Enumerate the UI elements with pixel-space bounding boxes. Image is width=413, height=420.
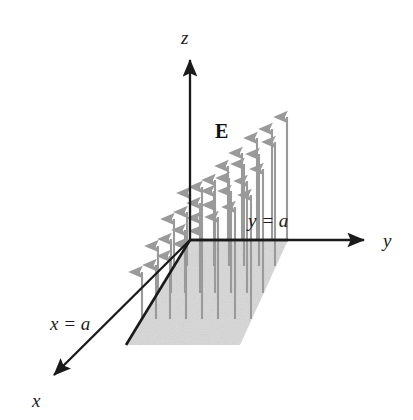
z-axis-label: z	[181, 28, 188, 47]
diagram-canvas	[0, 0, 413, 420]
y-axis-label: y	[383, 231, 391, 250]
field-vector-label: E	[215, 121, 228, 141]
x-equals-a-label: x = a	[50, 314, 90, 333]
x-axis-label: x	[32, 391, 40, 410]
electric-field-diagram: z y x x = a y = a E	[0, 0, 413, 420]
y-equals-a-label: y = a	[248, 211, 288, 230]
